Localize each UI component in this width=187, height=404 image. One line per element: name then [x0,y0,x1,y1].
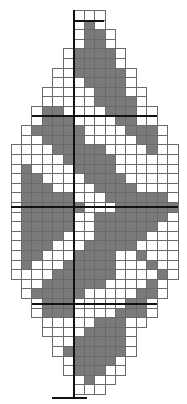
horizontal-guide-line [32,303,157,305]
center-guide-line [73,10,75,397]
empty-cell [136,317,147,328]
horizontal-guide-line [73,20,104,22]
horizontal-guide-line [52,397,87,399]
pattern-chart [0,0,187,404]
horizontal-guide-line [32,115,157,117]
empty-cell [105,375,116,386]
empty-cell [94,384,105,395]
empty-cell [115,365,126,376]
empty-cell [125,346,136,357]
empty-cell [167,269,178,280]
empty-cell [146,308,157,319]
empty-cell [157,288,168,299]
horizontal-guide-line [11,206,178,208]
